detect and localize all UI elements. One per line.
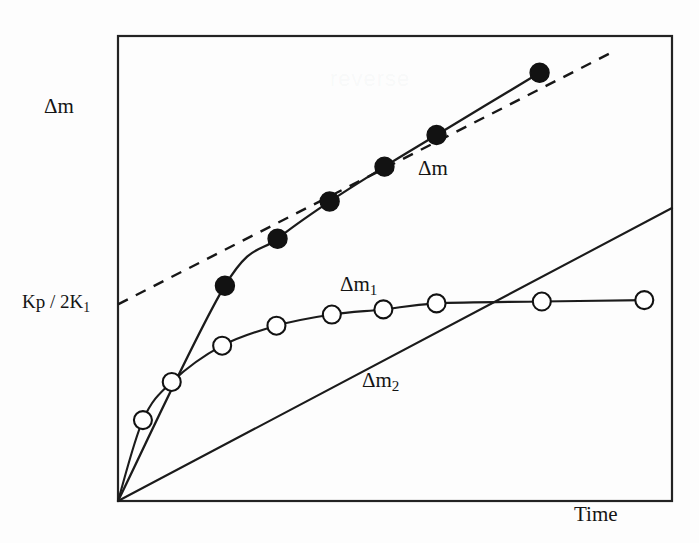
- y-intercept-label-text: Kp / 2K: [22, 291, 83, 312]
- curve-label-delta-m: Δm: [418, 158, 448, 179]
- data-point-filled: [268, 229, 287, 248]
- data-point-open: [163, 373, 181, 391]
- curve-delta-m-total: [118, 73, 540, 501]
- data-point-filled: [320, 192, 339, 211]
- data-point-open: [635, 291, 653, 309]
- data-point-filled: [427, 126, 446, 145]
- curve-delta-m2: [118, 208, 672, 501]
- curve-label-delta-m1-subscript: 1: [370, 282, 378, 298]
- curve-label-delta-m1-text: Δm: [340, 272, 370, 296]
- data-point-open: [374, 300, 392, 318]
- curve-label-delta-m1: Δm1: [340, 274, 377, 298]
- data-point-filled: [215, 276, 234, 295]
- curve-label-delta-m2-text: Δm: [362, 368, 392, 392]
- data-point-filled: [375, 157, 394, 176]
- data-point-open: [267, 317, 285, 335]
- data-point-open: [428, 294, 446, 312]
- data-point-open: [533, 293, 551, 311]
- curve-delta-m1: [118, 300, 644, 501]
- x-axis-label: Time: [574, 504, 618, 525]
- y-intercept-label-subscript: 1: [83, 300, 90, 315]
- data-point-open: [323, 306, 341, 324]
- curve-label-delta-m2: Δm2: [362, 370, 399, 394]
- data-point-open: [213, 337, 231, 355]
- plot-frame: [118, 36, 672, 501]
- markers-delta-m1-open-circles: [134, 291, 653, 429]
- figure-container: reverse Δm Kp / 2K1 Δm Δm1 Δm2 Time: [0, 0, 699, 543]
- y-intercept-label: Kp / 2K1: [22, 292, 90, 315]
- y-axis-label: Δm: [44, 96, 74, 117]
- data-point-open: [134, 411, 152, 429]
- data-point-filled: [530, 63, 549, 82]
- curve-label-delta-m2-subscript: 2: [392, 378, 400, 394]
